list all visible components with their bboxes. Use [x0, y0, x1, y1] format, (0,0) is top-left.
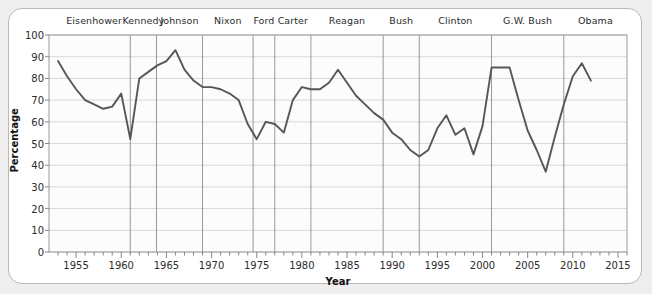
x-axis-tick-label: 1980: [289, 260, 314, 271]
y-axis-tick-label: 50: [18, 138, 44, 149]
x-axis-tick-label: 1965: [154, 260, 179, 271]
y-axis-tick-label: 0: [18, 247, 44, 258]
president-label: Clinton: [438, 15, 472, 26]
y-axis-tick-label: 30: [18, 181, 44, 192]
y-axis-tick-label: 40: [18, 160, 44, 171]
y-axis-tick-label: 70: [18, 95, 44, 106]
x-axis-tick-label: 1975: [244, 260, 269, 271]
x-axis-tick-label: 1955: [63, 260, 88, 271]
percentage-by-president-line-chart: [0, 0, 652, 294]
y-axis-tick-label: 100: [18, 30, 44, 41]
y-axis-tick-label: 10: [18, 225, 44, 236]
x-axis-tick-label: 2005: [515, 260, 540, 271]
president-label: Eisenhower: [66, 15, 122, 26]
x-axis-tick-label: 1960: [109, 260, 134, 271]
president-label: Reagan: [329, 15, 365, 26]
president-label: Bush: [389, 15, 413, 26]
x-axis-tick-label: 2010: [560, 260, 585, 271]
president-label: Carter: [278, 15, 308, 26]
x-axis-label: Year: [326, 276, 351, 287]
chart-root: Percentage Year EisenhowerKennedyJohnson…: [0, 0, 652, 294]
president-label: Ford: [253, 15, 274, 26]
president-label: G.W. Bush: [503, 15, 552, 26]
x-axis-tick-label: 1985: [334, 260, 359, 271]
x-axis-tick-label: 2015: [605, 260, 630, 271]
y-axis-tick-label: 20: [18, 203, 44, 214]
president-label: Nixon: [214, 15, 241, 26]
y-axis-tick-label: 60: [18, 116, 44, 127]
x-axis-tick-label: 2000: [470, 260, 495, 271]
president-label: Johnson: [160, 15, 198, 26]
x-axis-tick-label: 1990: [379, 260, 404, 271]
x-axis-tick-label: 1995: [425, 260, 450, 271]
x-axis-tick-label: 1970: [199, 260, 224, 271]
president-label: Obama: [578, 15, 613, 26]
president-label: Kennedy: [122, 15, 164, 26]
y-axis-tick-label: 90: [18, 51, 44, 62]
y-axis-tick-label: 80: [18, 73, 44, 84]
